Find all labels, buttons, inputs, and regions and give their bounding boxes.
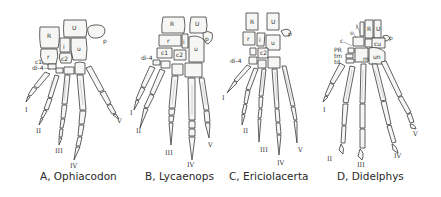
digit-label-ii: II: [243, 127, 249, 135]
digit-label-iv: IV: [70, 162, 78, 170]
label-radius: R: [47, 32, 51, 39]
label-centrale: c: [340, 37, 343, 44]
caption-b-lycaenops: B, Lycaenops: [145, 170, 214, 182]
label-centrale-2: c2: [61, 55, 68, 62]
label-ulnare: u: [77, 45, 81, 52]
digit-label-v: V: [412, 130, 418, 138]
digit-label-i: I: [130, 109, 133, 117]
digit-label-i: I: [25, 106, 28, 114]
label-ulna: U: [72, 24, 76, 31]
digit-label-iv: IV: [277, 159, 285, 167]
label-ulna: U: [271, 18, 275, 25]
caption-d-didelphys: D, Didelphys: [337, 170, 404, 182]
digit-label-iv: IV: [394, 152, 402, 160]
label-distal-carpals: di-4: [141, 54, 153, 61]
label-unciform: un: [373, 53, 381, 60]
panel-b-lycaenops-skeleton: [134, 17, 213, 160]
label-pisiform: p: [389, 34, 393, 42]
digit-label-v: V: [297, 146, 303, 154]
manus-comparison-figure: R U p r i u c2 c1 di-4 I II III IV V: [0, 0, 441, 197]
digit-label-i: I: [323, 106, 326, 114]
label-radius: R: [250, 18, 254, 25]
label-scaphoid: s: [350, 29, 353, 36]
digit-label-ii: II: [136, 127, 142, 135]
label-ulnare: u: [194, 45, 198, 52]
manus-skeleton-illustrations: R U p r i u c2 c1 di-4 I II III IV V: [0, 0, 441, 197]
digit-label-iii: III: [165, 149, 173, 157]
label-pisiform: p: [288, 30, 292, 38]
label-pisiform: p: [205, 35, 209, 43]
digit-label-ii: II: [327, 155, 333, 163]
label-pisiform: p: [103, 37, 107, 45]
label-radius: R: [367, 25, 371, 32]
label-centrale-2: c2: [176, 51, 183, 58]
label-distal-carpals: di-4: [32, 64, 44, 71]
label-ulna: U: [195, 20, 199, 27]
panel-d-didelphys-skeleton: [323, 20, 416, 160]
label-ulna: U: [376, 25, 380, 32]
digit-label-iii: III: [55, 147, 63, 155]
caption-a-ophiacodon: A, Ophiacodon: [40, 170, 117, 182]
label-ulnare: u: [271, 39, 275, 46]
label-distal-carpals: di-4: [230, 57, 242, 64]
label-cuneiform: cu: [374, 40, 381, 47]
panel-c-ericiolacerta-skeleton: [227, 13, 297, 155]
label-radius: R: [170, 20, 174, 27]
caption-c-ericiolacerta: C, Ericiolacerta: [229, 170, 308, 182]
digit-label-v: V: [116, 117, 122, 125]
digit-label-i: I: [222, 94, 225, 102]
digit-label-ii: II: [36, 127, 42, 135]
digit-label-iv: IV: [187, 161, 195, 169]
label-centrale-1: c1: [161, 49, 168, 56]
digit-label-iii: III: [260, 146, 268, 154]
digit-label-v: V: [207, 141, 213, 149]
label-centrale-2: c2: [260, 49, 267, 56]
digit-label-iii: III: [357, 161, 365, 169]
label-trapezoid: td: [334, 58, 340, 65]
label-magnum: m: [363, 55, 369, 62]
